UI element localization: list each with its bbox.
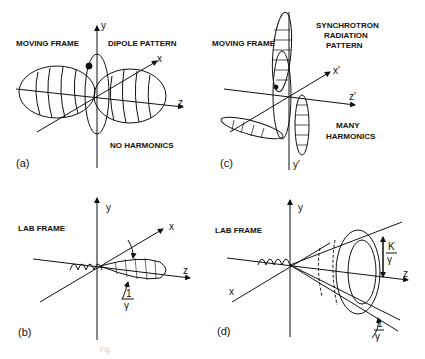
panel-c-x-label: x' <box>333 65 340 76</box>
panel-c-tag: (c) <box>220 157 233 169</box>
figure-caption: Fig. <box>100 346 112 353</box>
panel-b-x-label: x <box>169 221 174 232</box>
panel-a-tag: (a) <box>16 157 29 169</box>
panel-b-angle-den: γ <box>124 300 129 311</box>
lobe-left <box>219 113 284 143</box>
charge-dot <box>86 63 92 69</box>
panel-c-z-label: z' <box>349 91 356 102</box>
x-prime-axis <box>230 72 330 132</box>
x-axis <box>232 243 330 302</box>
panel-d-cone-num: K <box>388 241 395 252</box>
panel-a-y-label: y <box>101 20 106 31</box>
panel-a-frame-label: MOVING FRAME <box>16 39 80 48</box>
panel-a-note: NO HARMONICS <box>110 141 174 150</box>
panel-d-frame-label: LAB FRAME <box>215 226 263 235</box>
panel-c-title-1: SYNCHROTRON <box>316 21 379 30</box>
panel-c-note-2: HARMONICS <box>326 132 376 141</box>
panel-a-title: DIPOLE PATTERN <box>108 39 177 48</box>
cone-edge-top <box>290 222 402 265</box>
panel-d-y-label: y <box>298 202 303 213</box>
panel-c-y-label: y' <box>293 159 300 170</box>
panel-d-cone-den: γ <box>387 254 392 265</box>
panel-b-angle-num: 1 <box>126 288 132 299</box>
panel-d-tag: (d) <box>217 325 230 337</box>
dipole-lobe-left <box>19 66 95 118</box>
panel-b <box>33 198 190 340</box>
panel-a-x-label: x <box>157 53 162 64</box>
panel-c-note-1: MANY <box>336 121 360 130</box>
panel-b-y-label: y <box>106 202 111 213</box>
z-axis <box>227 258 408 280</box>
panel-c-frame-label: MOVING FRAME <box>212 39 276 48</box>
panel-d-x-label: x <box>229 286 234 297</box>
panel-b-z-label: z <box>183 265 188 276</box>
cone-ring-inner <box>348 240 376 304</box>
figure-canvas: MOVING FRAME DIPOLE PATTERN NO HARMONICS… <box>0 0 425 359</box>
z-axis <box>33 259 190 278</box>
panel-d-angle-den: γ <box>375 331 380 342</box>
panel-c-title-2: RADIATION <box>324 31 368 40</box>
z-axis <box>16 89 183 107</box>
panel-d-z-label: z <box>403 268 408 279</box>
panel-c-title-3: PATTERN <box>326 41 363 50</box>
panel-b-tag: (b) <box>18 326 31 338</box>
panel-d-angle-num: 1 <box>377 318 383 329</box>
panel-a-z-label: z <box>178 97 183 108</box>
panel-b-frame-label: LAB FRAME <box>18 224 66 233</box>
